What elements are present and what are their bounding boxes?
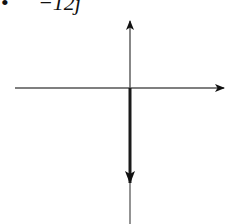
vector-diagram <box>0 0 230 224</box>
